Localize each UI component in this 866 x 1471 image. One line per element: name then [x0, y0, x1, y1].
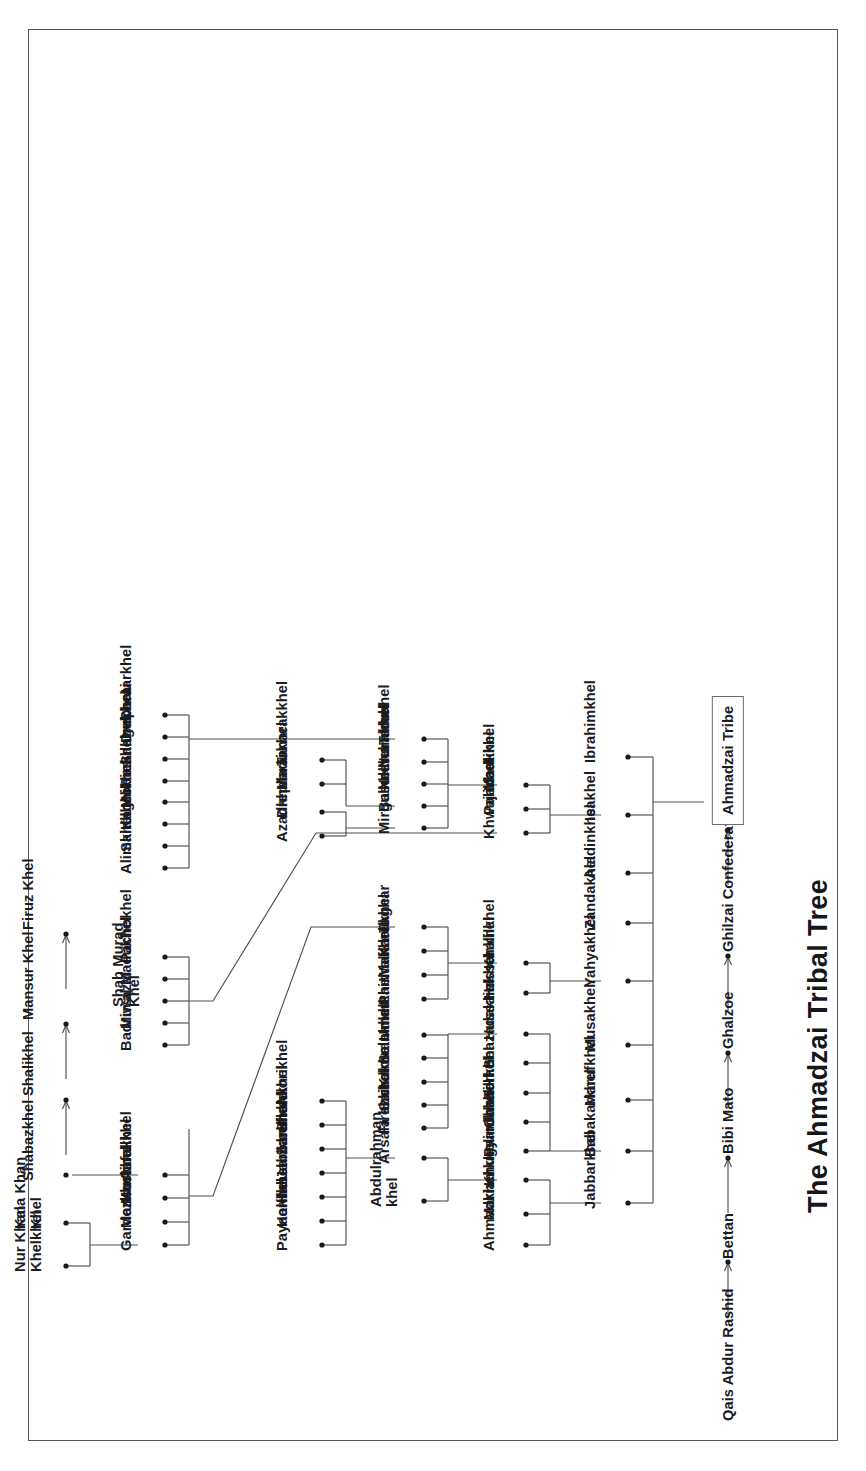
rotated-chart-container: The Ahmadzai Tribal Tree Qais Abdur Rash…: [28, 29, 838, 1441]
node-tarukhel: Tarukhel: [376, 684, 392, 745]
node-aimalkhel: Aimalkhel: [118, 1111, 134, 1181]
node-bettan: Bettan: [720, 1213, 736, 1259]
node-chatarkhel: Chatarkhel: [118, 645, 134, 721]
level1-wires: [625, 754, 704, 1205]
node-firuz-khel: Firuz Khel: [20, 858, 36, 930]
node-isakhel: Isakhel: [582, 771, 598, 821]
node-ahmadzai-tribe: Ahmadzai Tribe: [712, 696, 744, 825]
diagram-page: The Ahmadzai Tribal Tree Qais Abdur Rash…: [0, 0, 866, 1471]
node-mansur-khel: Mansur Khel: [20, 931, 36, 1020]
node-qais-abdur-rashid: Qais Abdur Rashid: [720, 1288, 736, 1421]
node-bibi-mato: Bibi Mato: [720, 1087, 736, 1154]
node-tanarakkhel: Tanarakkhel: [274, 681, 290, 766]
node-akorikhel: Akorikhel: [274, 1040, 290, 1107]
node-pachokhel: Pachokhel: [118, 889, 134, 963]
node-shalikhel: Shalikhel: [20, 1031, 36, 1096]
page-title: The Ahmadzai Tribal Tree: [803, 879, 834, 1213]
khwajadadkhel-to-badriwal-diagonal: [162, 833, 497, 1048]
node-khalilkhel: Khalilkhel: [481, 899, 497, 969]
node-shabazkhel: Shabazkhel: [20, 1100, 36, 1181]
node-mastikhel: Mastikhel: [481, 724, 497, 791]
node-ghalzoe: Ghalzoe: [720, 992, 736, 1049]
node-musakhel: Musakhel: [582, 984, 598, 1051]
chart-canvas: The Ahmadzai Tribal Tree Qais Abdur Rash…: [28, 29, 838, 1441]
page-frame: The Ahmadzai Tribal Tree Qais Abdur Rash…: [28, 29, 838, 1441]
node-taghar: Taghar: [376, 885, 392, 933]
node-ibrahimkhel: Ibrahimkhel: [582, 680, 598, 763]
